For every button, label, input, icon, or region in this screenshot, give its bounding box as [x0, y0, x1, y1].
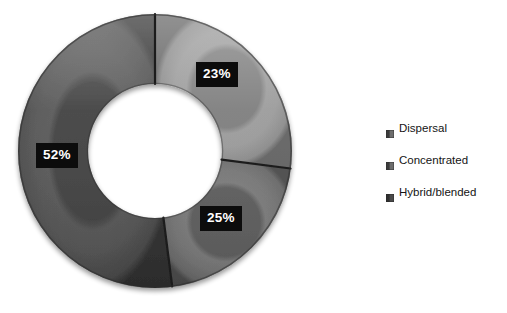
data-label-dispersal: 23% [196, 62, 238, 87]
square-marker-icon [386, 124, 394, 132]
legend-item-hybrid-blended[interactable]: Hybrid/blended [386, 179, 501, 205]
legend-label-concentrated: Concentrated [399, 154, 468, 166]
legend-item-dispersal[interactable]: Dispersal [386, 115, 501, 141]
chart-screenshot: 23% 52% 25% Dispersal [0, 0, 507, 313]
square-marker-icon [386, 188, 394, 196]
chart-legend: Dispersal Concentrated Hybrid/blende [386, 115, 501, 211]
legend-item-concentrated[interactable]: Concentrated [386, 147, 501, 173]
legend-label-dispersal: Dispersal [399, 122, 447, 134]
data-label-concentrated: 25% [200, 206, 242, 231]
square-marker-icon [386, 156, 394, 164]
legend-label-hybrid-blended: Hybrid/blended [399, 186, 476, 198]
doughnut-chart-plot-area: 23% 52% 25% [0, 0, 330, 313]
data-label-hybrid-blended: 52% [36, 143, 78, 168]
